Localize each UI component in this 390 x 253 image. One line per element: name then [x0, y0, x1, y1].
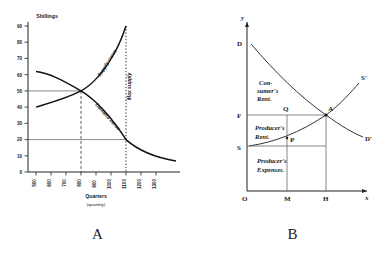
y-tick-label: 70 [17, 56, 23, 61]
point-label-F: F [237, 112, 241, 120]
producers-rent-line-2: Rent. [254, 133, 270, 140]
producers-expenses-line-1: Producer's [257, 157, 287, 164]
point-label-D-prime: D' [365, 135, 372, 143]
y-axis-title: Shillings [36, 13, 58, 19]
y-tick-label: 0 [19, 170, 22, 175]
y-tick-label: 40 [17, 105, 23, 110]
demand-curve-label: Demand curve [94, 102, 122, 132]
y-tick-label: 60 [17, 73, 23, 78]
figure-a: 90 80 70 60 50 40 30 20 10 0 Shillings 5… [0, 0, 195, 253]
x-tick-label: 1100 [122, 179, 127, 189]
point-label-D: D [237, 40, 242, 48]
max-supply-label: Max supply [126, 73, 132, 100]
x-tick-label: 500 [32, 179, 37, 187]
y-tick-label: 30 [17, 121, 23, 126]
x-axis-arrow [362, 189, 367, 193]
y-axis-label: y [240, 14, 245, 22]
supply-price-point [286, 137, 288, 139]
figure-b-caption: B [195, 226, 390, 243]
x-tick-label: 1300 [152, 178, 157, 189]
supply-curve [36, 26, 126, 107]
y-tick-label: 50 [17, 89, 23, 94]
point-label-A: A [328, 105, 333, 113]
y-axis-arrow [245, 22, 249, 27]
x-tick-label: 1000 [107, 178, 112, 189]
figure-b: y x D D' S S' A F H M Q P O Con- sumer's… [195, 0, 390, 253]
point-label-H: H [323, 195, 329, 203]
x-tick-label: 600 [47, 179, 52, 187]
point-label-S: S [237, 144, 241, 152]
consumers-rent-line-2: sumer's [256, 87, 279, 94]
y-tick-group: 90 80 70 60 50 40 30 20 10 0 [17, 24, 28, 175]
consumers-rent-line-3: Rent. [256, 95, 272, 102]
point-label-Q: Q [283, 105, 289, 113]
producers-expenses-label: Producer's Expenses. [256, 157, 287, 173]
equilibrium-point [324, 113, 327, 116]
y-tick-label: 90 [17, 24, 23, 29]
figure-a-caption: A [0, 226, 195, 243]
x-tick-label: 800 [77, 179, 82, 187]
x-axis-label: x [364, 194, 369, 202]
y-tick-label: 20 [17, 137, 23, 142]
x-tick-label: 700 [62, 179, 67, 187]
chart-b-svg: y x D D' S S' A F H M Q P O Con- sumer's… [195, 0, 390, 215]
chart-a-svg: 90 80 70 60 50 40 30 20 10 0 Shillings 5… [0, 0, 195, 215]
x-tick-group: 500 600 700 800 900 1000 1100 1200 1300 [32, 172, 157, 189]
producers-expenses-line-2: Expenses. [256, 166, 285, 173]
consumers-rent-label: Con- sumer's Rent. [256, 79, 279, 102]
producers-rent-line-1: Producer's [255, 124, 285, 131]
supply-curve-label: Supply curve [96, 48, 118, 78]
point-label-S-prime: S' [361, 74, 367, 82]
y-tick-label: 10 [17, 154, 23, 159]
point-label-O: O [242, 195, 248, 203]
point-label-P: P [290, 136, 295, 144]
x-axis-subtitle: (quantity) [87, 202, 106, 207]
y-tick-label: 80 [17, 40, 23, 45]
point-label-M: M [284, 195, 291, 203]
x-axis-title: Quarters [85, 193, 107, 199]
x-tick-label: 1200 [137, 178, 142, 189]
x-tick-label: 900 [92, 180, 97, 188]
consumers-rent-line-1: Con- [259, 79, 273, 86]
